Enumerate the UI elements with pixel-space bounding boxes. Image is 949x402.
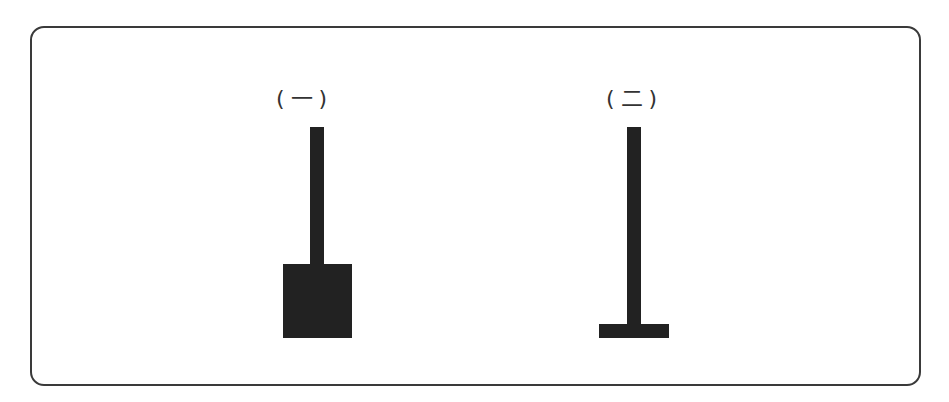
figure-2-base <box>599 324 669 338</box>
diagram-frame <box>30 26 921 386</box>
figure-1-label: (一) <box>276 80 333 112</box>
figure-1-block <box>283 264 352 338</box>
figure-2-label: (二) <box>606 80 663 112</box>
figure-2-rod <box>627 127 641 327</box>
figure-1-rod <box>310 127 324 267</box>
